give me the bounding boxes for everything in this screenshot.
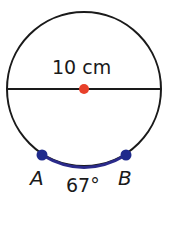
arc-measure-label: 67° — [66, 174, 100, 196]
point-a-label: A — [30, 166, 44, 190]
point-b-label: B — [118, 166, 132, 190]
point-a — [37, 150, 48, 161]
center-point — [79, 84, 89, 94]
diameter-label: 10 cm — [52, 56, 111, 78]
point-b — [121, 150, 132, 161]
